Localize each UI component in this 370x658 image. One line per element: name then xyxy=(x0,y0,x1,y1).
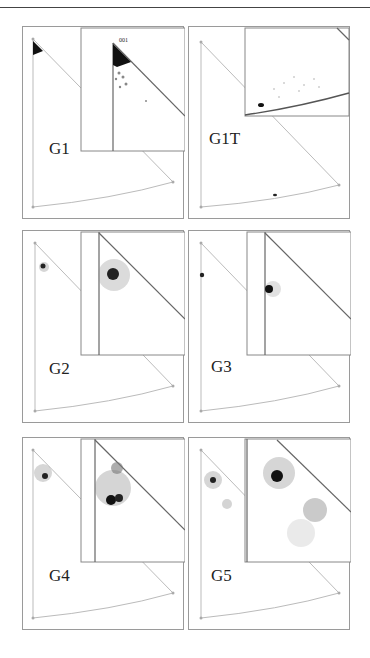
panel-label: G2 xyxy=(49,359,70,379)
pole-label: 001 xyxy=(119,37,128,43)
header-rule xyxy=(0,7,370,8)
panel-g3: G3 xyxy=(188,230,350,423)
panel-label: G4 xyxy=(49,566,70,586)
ipf-triangle xyxy=(23,438,185,631)
ipf-triangle xyxy=(189,438,351,631)
ipf-triangle xyxy=(23,27,185,220)
ipf-triangle xyxy=(189,231,351,424)
panel-g5: G5 xyxy=(188,437,350,630)
panel-g2: G2 xyxy=(22,230,184,423)
panel-label: G1T xyxy=(209,129,240,149)
panel-g4: G4 xyxy=(22,437,184,630)
panel-label: G5 xyxy=(211,566,232,586)
panel-label: G3 xyxy=(211,357,232,377)
panel-g1t: G1T xyxy=(188,26,350,219)
panel-label: G1 xyxy=(49,139,70,159)
ipf-triangle xyxy=(189,27,351,220)
ipf-triangle xyxy=(23,231,185,424)
panel-g1: 001 G1 xyxy=(22,26,184,219)
